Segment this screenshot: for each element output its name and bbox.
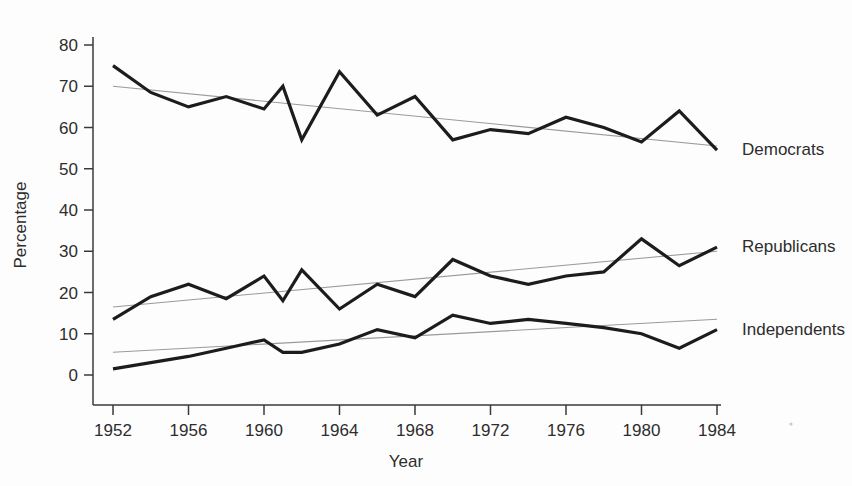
x-tick-label: 1956	[170, 421, 208, 440]
x-tick-label: 1968	[396, 421, 434, 440]
series-label-republicans: Republicans	[742, 237, 836, 256]
y-tick-label: 30	[59, 242, 78, 261]
x-tick-label: 1980	[623, 421, 661, 440]
x-axis-title: Year	[389, 452, 424, 471]
y-axis-tick-labels: 01020304050607080	[59, 36, 78, 385]
scan-speck	[789, 422, 792, 425]
x-axis-tick-labels: 195219561960196419681972197619801984	[94, 421, 736, 440]
y-axis-title: Percentage	[11, 182, 30, 269]
y-tick-label: 0	[69, 366, 78, 385]
y-tick-label: 80	[59, 36, 78, 55]
y-tick-label: 20	[59, 284, 78, 303]
y-tick-label: 70	[59, 77, 78, 96]
series-label-independents: Independents	[742, 320, 845, 339]
y-tick-label: 60	[59, 119, 78, 138]
x-tick-label: 1984	[698, 421, 736, 440]
y-tick-label: 10	[59, 325, 78, 344]
chart-background	[0, 0, 852, 486]
x-tick-label: 1976	[547, 421, 585, 440]
party-identification-line-chart: 01020304050607080 Percentage 19521956196…	[0, 0, 852, 486]
y-tick-label: 40	[59, 201, 78, 220]
series-label-democrats: Democrats	[742, 140, 824, 159]
x-tick-label: 1972	[472, 421, 510, 440]
x-tick-label: 1960	[245, 421, 283, 440]
x-tick-label: 1964	[321, 421, 359, 440]
chart-figure: 01020304050607080 Percentage 19521956196…	[0, 0, 852, 486]
y-tick-label: 50	[59, 160, 78, 179]
x-tick-label: 1952	[94, 421, 132, 440]
